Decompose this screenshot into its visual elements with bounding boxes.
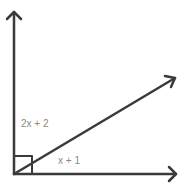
angle-figure	[0, 0, 189, 195]
lower-angle-label: x + 1	[58, 155, 80, 166]
upper-angle-label: 2x + 2	[21, 118, 49, 129]
